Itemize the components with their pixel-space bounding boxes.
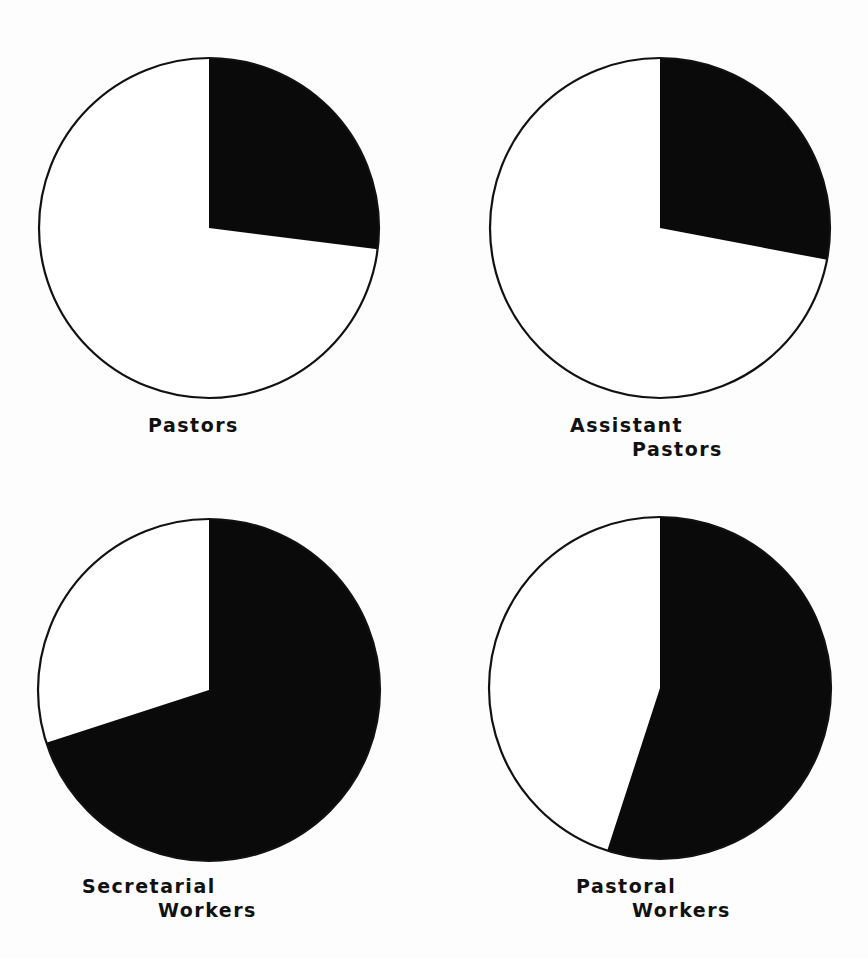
pie-label-secretarial-workers: SecretarialWorkers: [82, 874, 257, 922]
pie-slice-filled: [209, 58, 379, 249]
pie-secretarial-workers: [38, 519, 380, 861]
pie-label-line: Secretarial: [82, 874, 257, 898]
pie-pastors: [39, 58, 379, 398]
pie-label-line: Pastors: [570, 437, 723, 461]
pie-label-line: Pastoral: [576, 874, 731, 898]
pie-charts-canvas: [0, 0, 868, 959]
pie-chart-grid: PastorsAssistantPastorsSecretarialWorker…: [0, 0, 868, 959]
pie-pastoral-workers: [489, 517, 831, 859]
pie-label-pastors: Pastors: [148, 413, 239, 437]
pie-label-line: Workers: [576, 898, 731, 922]
pie-label-pastoral-workers: PastoralWorkers: [576, 874, 731, 922]
pie-label-line: Assistant: [570, 413, 723, 437]
pie-assistant-pastors: [490, 58, 830, 398]
pie-label-line: Pastors: [148, 413, 239, 437]
pie-label-assistant-pastors: AssistantPastors: [570, 413, 723, 461]
pie-slice-filled: [660, 58, 830, 260]
pie-label-line: Workers: [82, 898, 257, 922]
